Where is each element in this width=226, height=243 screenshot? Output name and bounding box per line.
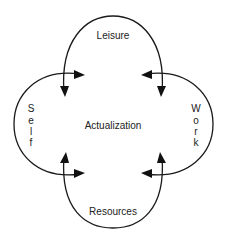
actualization-label: Actualization [85,120,142,131]
leisure-loop: Leisure [60,16,166,97]
work-letter: W [191,103,201,114]
arrow-head-icon [60,152,69,163]
self-loop: S e l f [14,70,85,178]
self-letter: l [30,126,32,137]
arrow-head-icon [157,86,166,97]
arrow-head-icon [74,70,85,79]
self-letter: S [28,103,35,114]
self-letter: e [28,115,34,126]
resources-label: Resources [89,206,137,217]
self-letter: f [30,137,33,148]
arrow-head-icon [74,169,85,178]
resources-loop: Resources [60,152,166,228]
arrow-head-icon [60,86,69,97]
work-letter: o [193,115,199,126]
work-loop: W o r k [141,70,213,178]
leisure-label: Leisure [97,30,130,41]
arrow-head-icon [157,152,166,163]
actualization-cycle-diagram: Leisure S e l f W o r k Resources Actual… [0,0,226,243]
arrow-head-icon [141,70,152,79]
work-letter: r [194,126,198,137]
work-letter: k [194,137,200,148]
arrow-head-icon [141,169,152,178]
